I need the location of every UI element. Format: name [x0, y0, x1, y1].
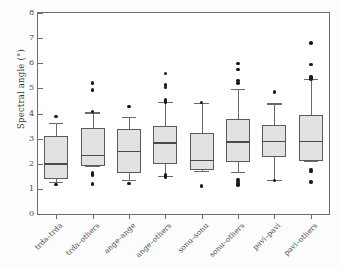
outlier-point [164, 101, 167, 104]
median-line [190, 160, 214, 161]
median-line [299, 141, 323, 142]
x-axis-tick [165, 214, 166, 219]
outlier-point [309, 170, 312, 173]
y-axis-tick-label: 2 [8, 160, 34, 168]
whisker-cap-upper [267, 103, 281, 104]
outlier-point [127, 182, 130, 185]
x-axis-tick [238, 214, 239, 219]
outlier-point [309, 41, 312, 44]
y-axis-tick [38, 214, 43, 215]
box [190, 133, 214, 170]
y-axis-tick-label: 8 [8, 9, 34, 17]
outlier-point [236, 81, 239, 84]
y-axis-tick [38, 13, 43, 14]
outlier-point [91, 173, 94, 176]
whisker-cap-lower [304, 161, 318, 162]
x-axis-tick [56, 214, 57, 219]
x-axis-tick [202, 214, 203, 219]
box [299, 115, 323, 161]
whisker-lower [274, 157, 275, 180]
whisker-upper [56, 123, 57, 136]
median-line [262, 141, 286, 142]
median-line [226, 141, 250, 142]
whisker-cap-lower [85, 166, 99, 167]
x-axis-tick [274, 214, 275, 219]
outlier-point [164, 72, 167, 75]
y-axis-tick [38, 189, 43, 190]
outlier-point [236, 68, 239, 71]
whisker-lower [238, 162, 239, 172]
outlier-point [54, 115, 57, 118]
median-line [44, 163, 68, 164]
box [226, 119, 250, 162]
outlier-point [91, 88, 94, 91]
outlier-point [164, 175, 167, 178]
plot-inner: 012345678trda–trdatrda–othersange–angean… [38, 13, 329, 214]
boxplot-figure: Spectral angle (°) 012345678trda–trdatrd… [0, 0, 341, 269]
whisker-upper [129, 117, 130, 129]
y-axis-tick-label: 4 [8, 110, 34, 118]
median-line [117, 151, 141, 152]
y-axis-tick [38, 88, 43, 89]
outlier-point [200, 184, 203, 187]
whisker-cap-upper [231, 89, 245, 90]
outlier-point [309, 63, 312, 66]
y-axis-tick [38, 63, 43, 64]
y-axis-tick-label: 7 [8, 34, 34, 42]
y-axis-tick [38, 164, 43, 165]
whisker-upper [274, 103, 275, 125]
box [81, 128, 105, 166]
y-axis-tick [38, 38, 43, 39]
whisker-upper [165, 102, 166, 125]
box [44, 136, 68, 179]
whisker-cap-upper [122, 117, 136, 118]
whisker-cap-lower [194, 171, 208, 172]
whisker-cap-lower [231, 172, 245, 173]
outlier-point [54, 183, 57, 186]
outlier-point [91, 182, 94, 185]
outlier-point [309, 77, 312, 80]
whisker-upper [238, 89, 239, 118]
outlier-point [236, 183, 239, 186]
x-axis-tick [129, 214, 130, 219]
outlier-point [91, 81, 94, 84]
outlier-point [236, 62, 239, 65]
y-axis-tick-label: 1 [8, 185, 34, 193]
outlier-point [164, 86, 167, 89]
box [153, 126, 177, 165]
whisker-cap-upper [49, 123, 63, 124]
whisker-upper [93, 112, 94, 127]
whisker-upper [202, 103, 203, 133]
outlier-point [127, 105, 130, 108]
whisker-lower [129, 173, 130, 180]
y-axis-tick-label: 3 [8, 135, 34, 143]
y-axis-tick-label: 0 [8, 210, 34, 218]
y-axis-tick-label: 5 [8, 84, 34, 92]
x-axis-tick [93, 214, 94, 219]
outlier-point [273, 90, 276, 93]
whisker-upper [311, 79, 312, 114]
outlier-point [309, 180, 312, 183]
outlier-point [273, 179, 276, 182]
y-axis-tick [38, 114, 43, 115]
median-line [153, 142, 177, 143]
median-line [81, 155, 105, 156]
plot-area: 012345678trda–trdatrda–othersange–angean… [37, 12, 330, 215]
y-axis-tick [38, 139, 43, 140]
x-axis-tick [311, 214, 312, 219]
y-axis-tick-label: 6 [8, 59, 34, 67]
